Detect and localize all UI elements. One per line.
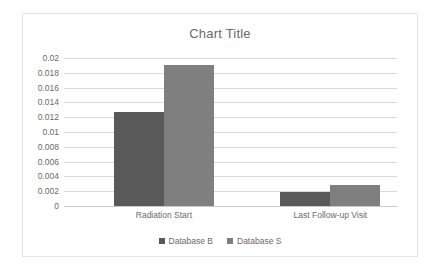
y-axis-tick-labels: 00.0020.0040.0060.0080.010.0120.0140.016… — [23, 58, 59, 206]
x-axis-category-label: Radiation Start — [136, 210, 192, 220]
y-axis-tick-label: 0.008 — [38, 142, 59, 152]
legend-label: Database S — [237, 236, 281, 246]
chart-container: Chart Title 00.0020.0040.0060.0080.010.0… — [22, 13, 418, 257]
bar — [280, 192, 330, 206]
chart-title: Chart Title — [23, 26, 417, 41]
y-axis-tick-label: 0.004 — [38, 171, 59, 181]
legend-label: Database B — [169, 236, 213, 246]
y-axis-tick-label: 0 — [54, 201, 59, 211]
legend-swatch-icon — [159, 238, 165, 244]
plot-area-wrapper: 00.0020.0040.0060.0080.010.0120.0140.016… — [64, 58, 397, 206]
bar — [330, 185, 380, 206]
legend-entry[interactable]: Database B — [159, 236, 213, 246]
bar — [114, 112, 164, 206]
x-axis-category-label: Last Follow-up Visit — [294, 210, 368, 220]
legend-swatch-icon — [227, 238, 233, 244]
y-axis-tick-label: 0.018 — [38, 68, 59, 78]
y-axis-tick-label: 0.01 — [42, 127, 59, 137]
y-axis-tick-label: 0.002 — [38, 186, 59, 196]
y-axis-tick-label: 0.006 — [38, 157, 59, 167]
y-axis-tick-label: 0.014 — [38, 97, 59, 107]
chart-legend: Database BDatabase S — [23, 236, 417, 246]
legend-entry[interactable]: Database S — [227, 236, 281, 246]
x-axis-category-labels: Radiation StartLast Follow-up Visit — [64, 210, 397, 226]
bar — [164, 65, 214, 206]
y-axis-tick-label: 0.016 — [38, 83, 59, 93]
bars-layer — [64, 58, 397, 206]
y-axis-tick-label: 0.012 — [38, 112, 59, 122]
y-axis-tick-label: 0.02 — [42, 53, 59, 63]
x-axis-line — [64, 206, 397, 207]
